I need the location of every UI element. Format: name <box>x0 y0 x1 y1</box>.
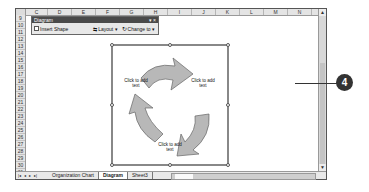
column-header[interactable]: D <box>48 9 72 15</box>
last-sheet-icon[interactable]: ▸| <box>34 173 37 178</box>
row-header[interactable]: 27 <box>16 141 25 148</box>
row-header[interactable]: 17 <box>16 71 25 78</box>
column-header[interactable]: K <box>216 9 240 15</box>
row-header[interactable]: 10 <box>16 22 25 29</box>
layout-button[interactable]: ⇆ Layout ▾ <box>93 26 117 32</box>
prev-sheet-icon[interactable]: ◂ <box>24 173 26 178</box>
first-sheet-icon[interactable]: |◂ <box>18 173 21 178</box>
column-header[interactable]: C <box>26 9 48 15</box>
arrow-left <box>129 94 163 142</box>
horizontal-scroll-thumb[interactable] <box>175 174 193 179</box>
row-headers: 9 10 11 12 13 14 15 16 17 18 19 20 21 22… <box>16 15 26 171</box>
vertical-scroll-thumb[interactable] <box>320 63 325 173</box>
column-header[interactable]: E <box>72 9 96 15</box>
insert-shape-label: Insert Shape <box>40 26 68 32</box>
toolbar-title-bar[interactable]: Diagram ▾ × <box>32 17 158 23</box>
callout-badge: 4 <box>336 74 353 91</box>
horizontal-scrollbar[interactable] <box>171 173 316 180</box>
cycle-diagram[interactable]: Click to add text Click to add text Clic… <box>111 44 229 166</box>
diagram-toolbar: Diagram ▾ × Insert Shape ⇆ Layout ▾ ↻ Ch… <box>31 16 159 35</box>
callout-line <box>295 83 337 84</box>
row-header[interactable]: 30 <box>16 162 25 169</box>
row-header[interactable]: 16 <box>16 64 25 71</box>
row-header[interactable]: 12 <box>16 36 25 43</box>
column-headers: C D E F G H I J K L M N <box>16 9 318 16</box>
layout-label: Layout ▾ <box>98 26 117 32</box>
insert-shape-icon <box>34 26 39 31</box>
vertical-scrollbar[interactable]: ▲ ▼ <box>318 9 326 171</box>
toolbar-title: Diagram <box>34 17 53 23</box>
column-header[interactable]: H <box>144 9 168 15</box>
row-header[interactable]: 11 <box>16 29 25 36</box>
placeholder-left[interactable]: Click to add text <box>121 78 151 88</box>
layout-icon: ⇆ <box>93 26 97 32</box>
row-header[interactable]: 24 <box>16 120 25 127</box>
scroll-down-arrow-icon[interactable]: ▼ <box>319 164 326 171</box>
column-header[interactable]: J <box>192 9 216 15</box>
row-header[interactable]: 18 <box>16 78 25 85</box>
tab-diagram[interactable]: Diagram <box>99 172 128 179</box>
row-header[interactable]: 26 <box>16 134 25 141</box>
change-to-button[interactable]: ↻ Change to ▾ <box>122 25 158 32</box>
tab-organization-chart[interactable]: Organization Chart <box>48 172 99 179</box>
row-header[interactable]: 25 <box>16 127 25 134</box>
row-header[interactable]: 15 <box>16 57 25 64</box>
scroll-up-arrow-icon[interactable]: ▲ <box>319 9 326 16</box>
row-header[interactable]: 23 <box>16 113 25 120</box>
column-header[interactable]: F <box>96 9 120 15</box>
column-header[interactable]: I <box>168 9 192 15</box>
toolbar-close-icon[interactable]: ▾ × <box>149 17 156 23</box>
placeholder-bottom[interactable]: Click to add text <box>155 142 185 152</box>
row-header[interactable]: 20 <box>16 92 25 99</box>
row-header[interactable]: 28 <box>16 148 25 155</box>
placeholder-right[interactable]: Click to add text <box>188 78 218 88</box>
tab-sheet3[interactable]: Sheet3 <box>128 172 153 179</box>
column-header[interactable]: N <box>288 9 312 15</box>
row-header[interactable]: 29 <box>16 155 25 162</box>
sheet-tab-bar: |◂ ◂ ▸ ▸| Organization Chart Diagram She… <box>16 171 326 179</box>
row-header[interactable]: 19 <box>16 85 25 92</box>
cycle-icon: ↻ <box>122 25 127 32</box>
change-to-label: Change to ▾ <box>128 26 155 32</box>
row-header[interactable]: 22 <box>16 106 25 113</box>
row-header[interactable]: 9 <box>16 15 25 22</box>
row-header[interactable]: 14 <box>16 50 25 57</box>
column-header[interactable]: M <box>264 9 288 15</box>
next-sheet-icon[interactable]: ▸ <box>29 173 31 178</box>
sheet-nav-buttons: |◂ ◂ ▸ ▸| <box>16 173 48 178</box>
column-header[interactable]: L <box>240 9 264 15</box>
row-header[interactable]: 21 <box>16 99 25 106</box>
insert-shape-button[interactable]: Insert Shape <box>34 26 68 32</box>
column-header[interactable]: G <box>120 9 144 15</box>
row-header[interactable]: 13 <box>16 43 25 50</box>
